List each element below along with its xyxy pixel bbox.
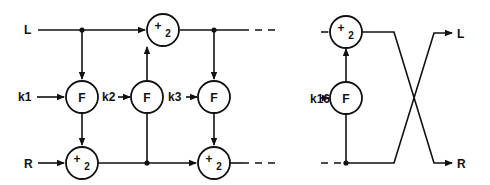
adder-subscript: 2 [348,30,354,41]
function-label: F [143,91,150,105]
adder-node-3 [198,147,230,179]
adder-subscript: 2 [84,161,90,172]
input-label-left: L [24,23,31,37]
adder-node-1 [66,147,98,179]
swap-wire-to-R [362,32,452,163]
adder-node-2 [147,14,179,46]
adder-symbol: + [205,152,212,166]
feistel-network-diagram: L R k1 F + 2 k2 F + 2 k3 F + 2 + 2 k16 [0,0,490,185]
function-label: F [210,91,217,105]
adder-symbol: + [73,152,80,166]
output-label-right: R [457,157,466,171]
adder-symbol: + [337,21,344,35]
function-label: F [78,91,85,105]
adder-symbol: + [154,19,161,33]
key-label-k3: k3 [168,90,182,104]
key-label-k1: k1 [18,90,32,104]
adder-subscript: 2 [165,28,171,39]
key-label-k16: k16 [310,92,330,106]
key-label-k2: k2 [102,90,116,104]
function-label: F [342,92,349,106]
input-label-right: R [24,157,33,171]
adder-node-final [330,16,362,48]
output-label-left: L [457,27,464,41]
adder-subscript: 2 [216,161,222,172]
